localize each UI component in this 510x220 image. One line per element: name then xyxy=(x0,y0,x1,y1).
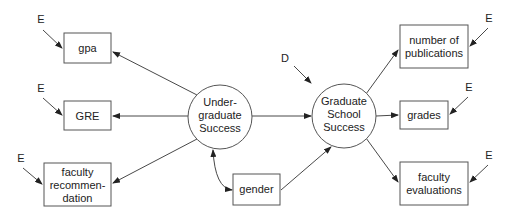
svg-text:Under-: Under- xyxy=(203,96,237,108)
svg-text:grades: grades xyxy=(407,109,441,121)
path-gender-grad xyxy=(281,147,331,190)
error-label-facrec: E xyxy=(17,152,24,164)
path-grad-publications xyxy=(366,50,398,94)
svg-text:gender: gender xyxy=(239,183,274,195)
node-faculty-evaluations: faculty evaluations xyxy=(400,162,468,205)
svg-text:School: School xyxy=(327,108,361,120)
svg-text:graduate: graduate xyxy=(198,109,241,121)
node-gender: gender xyxy=(233,174,280,205)
node-number-of-publications: number of publications xyxy=(400,25,468,68)
error-label-gpa: E xyxy=(37,13,44,25)
svg-text:evaluations: evaluations xyxy=(406,184,462,196)
svg-text:faculty: faculty xyxy=(62,166,94,178)
error-arrow-faceval xyxy=(470,165,488,182)
svg-text:Graduate: Graduate xyxy=(321,95,367,107)
disturbance-label: D xyxy=(281,52,289,64)
svg-text:Success: Success xyxy=(199,122,241,134)
error-arrow-facrec xyxy=(23,168,42,184)
svg-text:publications: publications xyxy=(405,47,464,59)
node-gpa: gpa xyxy=(64,33,111,63)
svg-text:gpa: gpa xyxy=(78,42,97,54)
error-label-gre: E xyxy=(37,82,44,94)
path-undergrad-gender-correlation xyxy=(213,150,232,190)
sem-diagram: E E E D E E E gpa GRE faculty recommen- … xyxy=(0,0,510,220)
svg-text:Success: Success xyxy=(323,121,365,133)
svg-text:number of: number of xyxy=(409,34,459,46)
node-graduate-school-success: Graduate School Success xyxy=(312,84,376,148)
node-faculty-recommendation: faculty recommen- dation xyxy=(44,163,111,206)
error-arrow-gre xyxy=(43,98,62,115)
path-grad-grades xyxy=(376,115,398,116)
error-arrow-publications xyxy=(470,28,488,46)
error-arrow-grades xyxy=(450,97,468,114)
error-label-publications: E xyxy=(485,12,492,24)
error-label-grades: E xyxy=(465,81,472,93)
svg-text:faculty: faculty xyxy=(418,171,450,183)
node-grades: grades xyxy=(400,101,448,129)
path-grad-faceval xyxy=(366,138,398,182)
svg-text:GRE: GRE xyxy=(76,110,100,122)
error-arrow-gpa xyxy=(43,30,62,48)
node-gre: GRE xyxy=(64,101,111,130)
svg-text:recommen-: recommen- xyxy=(50,179,106,191)
disturbance-arrow xyxy=(294,66,311,83)
svg-text:dation: dation xyxy=(63,192,93,204)
path-undergrad-gpa xyxy=(113,52,197,95)
error-label-faceval: E xyxy=(485,149,492,161)
node-undergraduate-success: Under- graduate Success xyxy=(188,85,252,149)
path-undergrad-facrec xyxy=(113,139,197,183)
